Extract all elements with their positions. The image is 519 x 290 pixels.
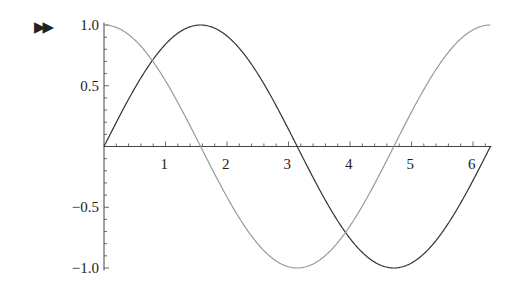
x-tick-label: 3 — [284, 156, 292, 172]
x-tick-label: 2 — [222, 156, 230, 172]
x-tick-label: 5 — [407, 156, 415, 172]
y-tick-label: −1.0 — [72, 260, 99, 276]
line-chart: 1234561.00.5−0.5−1.0 — [0, 0, 519, 290]
y-tick-label: −0.5 — [72, 199, 99, 215]
y-tick-label: 0.5 — [80, 78, 99, 94]
x-tick-label: 1 — [161, 156, 169, 172]
y-tick-label: 1.0 — [80, 17, 99, 33]
x-tick-label: 6 — [468, 156, 476, 172]
x-tick-label: 4 — [345, 156, 353, 172]
